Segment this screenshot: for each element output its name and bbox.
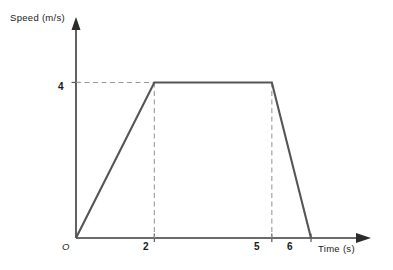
y-axis-label: Speed (m/s) xyxy=(10,12,65,23)
chart-canvas xyxy=(0,0,393,270)
x-tick-label-5: 5 xyxy=(254,241,260,252)
origin-label: O xyxy=(62,241,70,252)
y-axis-arrowhead xyxy=(72,17,81,30)
guide-lines-group xyxy=(76,82,272,238)
x-tick-label-2: 2 xyxy=(143,241,149,252)
speed-curve xyxy=(76,82,311,238)
x-axis-arrowhead xyxy=(356,233,371,243)
axes-group xyxy=(72,17,372,243)
speed-time-graph: Speed (m/s) Time (s) O 4 2 5 6 xyxy=(0,0,393,270)
x-tick-label-6: 6 xyxy=(287,241,293,252)
y-tick-label-4: 4 xyxy=(58,81,64,92)
x-axis-label: Time (s) xyxy=(318,243,355,254)
tick-marks-group xyxy=(72,82,312,242)
